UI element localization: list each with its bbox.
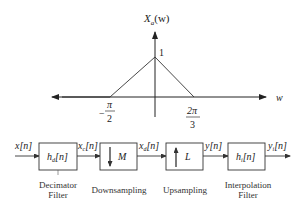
left-cutoff-label: − π 2 [99,99,115,124]
caption-line: Filter [220,190,276,200]
svg-text:2π: 2π [187,105,198,116]
right-cutoff-label: 2π 3 [186,105,200,130]
upsampling-caption: Upsampling [157,185,213,195]
signal-output-label: yi[n] [267,140,287,152]
decimator-filter-symbol: hd[n] [47,151,68,163]
caption-line: Downsampling [88,185,150,195]
caption-line: Filter [33,190,83,200]
spectrum-plot: Xa(w) 1 w − π 2 2π 3 [52,12,283,130]
upsample-factor: L [184,151,191,162]
caption-line: Decimator [33,180,83,190]
interpolation-filter-symbol: hi[n] [236,151,256,163]
triangle-spectrum [110,57,194,97]
interpolation-filter-caption: Interpolation Filter [220,180,276,200]
signal-xc-label: xc[n] [77,140,98,152]
downsampling-caption: Downsampling [88,185,150,195]
magnitude-axis-label: Xa(w) [143,12,170,27]
svg-text:2: 2 [107,113,112,124]
signal-y-label: y[n] [204,140,222,151]
signal-xd-label: xd[n] [138,140,159,152]
svg-text:π: π [107,99,113,110]
block-diagram: hd[n] M L hi[n] x[n] xc[n] xd[n] y[n] yi… [14,140,290,175]
decimator-filter-caption: Decimator Filter [33,180,83,200]
svg-text:−: − [99,108,105,119]
downsample-factor: M [117,151,127,162]
caption-line: Upsampling [157,185,213,195]
svg-text:3: 3 [190,119,195,130]
caption-line: Interpolation [220,180,276,190]
signal-input-label: x[n] [14,140,32,151]
peak-value-label: 1 [159,47,164,58]
frequency-axis-label: w [276,92,283,103]
